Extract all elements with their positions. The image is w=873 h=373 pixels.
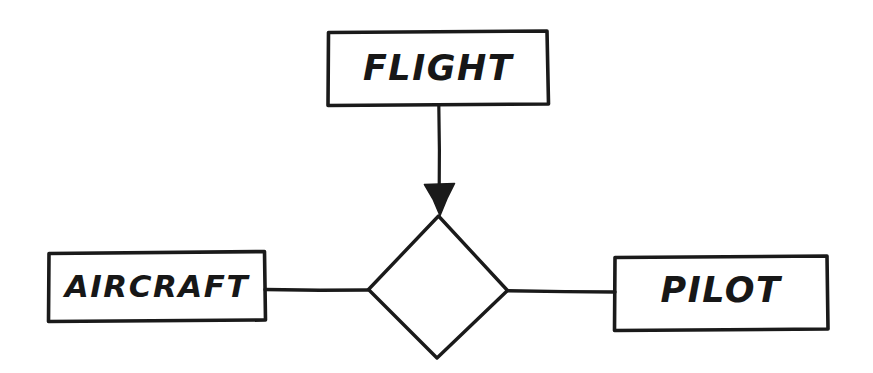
entity-flight-label: FLIGHT: [363, 48, 515, 88]
entity-pilot-label: PILOT: [661, 270, 783, 310]
connector-flight-to-diamond: [425, 105, 455, 216]
connector-aircraft-to-diamond: [265, 290, 368, 291]
er-diagram: FLIGHT AIRCRAFT PILOT: [0, 0, 873, 373]
arrowhead-down-icon: [425, 184, 455, 216]
entity-pilot[interactable]: PILOT: [615, 256, 829, 331]
connector-flight-to-diamond-line: [439, 105, 440, 190]
entity-aircraft[interactable]: AIRCRAFT: [49, 252, 266, 322]
entity-aircraft-label: AIRCRAFT: [62, 268, 251, 304]
entity-flight[interactable]: FLIGHT: [328, 31, 549, 106]
diagram-canvas: FLIGHT AIRCRAFT PILOT: [0, 0, 873, 373]
relationship-diamond[interactable]: [369, 216, 508, 358]
relationship-diamond-border: [369, 216, 508, 358]
connector-diamond-to-pilot: [508, 291, 616, 292]
